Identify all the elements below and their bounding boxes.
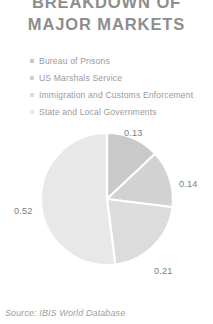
source-caption: Source: IBIS World Database	[5, 308, 125, 318]
legend-item-label: Bureau of Prisons	[39, 53, 110, 70]
pie-slices	[41, 133, 173, 265]
pie-slice-3	[107, 199, 172, 264]
pie-value-label-3: 0.21	[154, 266, 173, 276]
legend-item-state-and-local-governments: State and Local Governments	[30, 104, 210, 121]
page-title-line-2: MAJOR MARKETS	[0, 13, 213, 35]
square-marker-icon	[30, 110, 34, 114]
pie-slice-4	[41, 133, 115, 265]
square-marker-icon	[30, 93, 34, 97]
square-marker-icon	[30, 59, 34, 63]
pie-chart-svg	[38, 130, 176, 268]
pie-chart: 0.13 0.14 0.21 0.52	[0, 126, 213, 291]
page-title: BREAKDOWN OF MAJOR MARKETS	[0, 0, 213, 35]
legend-item-bureau-of-prisons: Bureau of Prisons	[30, 53, 210, 70]
legend-item-label: Immigration and Customs Enforcement	[39, 87, 193, 104]
legend-item-us-marshals-service: US Marshals Service	[30, 70, 210, 87]
legend-item-label: US Marshals Service	[39, 70, 122, 87]
chart-legend: Bureau of Prisons US Marshals Service Im…	[30, 53, 210, 121]
pie-value-label-1: 0.13	[124, 128, 143, 138]
legend-item-immigration-and-customs-enforcement: Immigration and Customs Enforcement	[30, 87, 210, 104]
square-marker-icon	[30, 76, 34, 80]
pie-value-label-2: 0.14	[179, 179, 198, 189]
legend-item-label: State and Local Governments	[39, 104, 157, 121]
pie-value-label-4: 0.52	[14, 206, 33, 216]
page-title-line-1: BREAKDOWN OF	[0, 0, 213, 13]
